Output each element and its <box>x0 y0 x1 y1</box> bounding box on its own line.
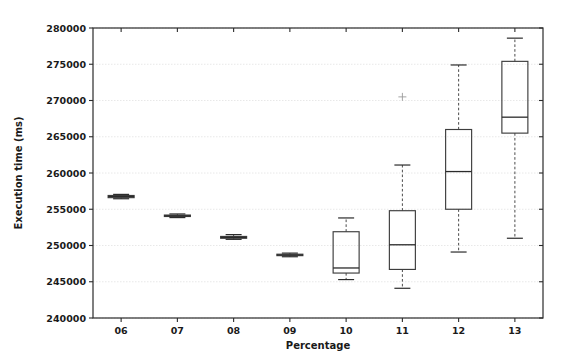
box-iqr <box>446 130 472 210</box>
boxplot-07 <box>164 214 190 218</box>
y-tick-label: 265000 <box>46 131 86 142</box>
y-tick-label: 275000 <box>46 59 86 70</box>
box-series <box>108 38 528 288</box>
boxplot-08 <box>221 235 247 240</box>
x-tick-label: 07 <box>171 325 184 336</box>
x-tick-label: 12 <box>452 325 465 336</box>
x-axis-title: Percentage <box>286 340 351 351</box>
box-iqr <box>333 232 359 273</box>
y-axis-title: Execution time (ms) <box>13 116 24 229</box>
x-tick-label: 09 <box>283 325 296 336</box>
y-tick-label: 240000 <box>46 313 86 324</box>
y-tick-label: 250000 <box>46 240 86 251</box>
boxplot-canvas: 2400002450002500002550002600002650002700… <box>0 0 570 359</box>
y-tick-label: 245000 <box>46 276 86 287</box>
boxplot-12 <box>446 65 472 252</box>
x-tick-label: 13 <box>508 325 521 336</box>
boxplot-13 <box>502 38 528 238</box>
boxplot-figure: 2400002450002500002550002600002650002700… <box>0 0 570 359</box>
y-tick-label: 280000 <box>46 23 86 34</box>
y-tick-label: 255000 <box>46 204 86 215</box>
boxplot-06 <box>108 194 134 198</box>
x-tick-label: 06 <box>115 325 129 336</box>
box-iqr <box>389 211 415 270</box>
y-tick-label: 260000 <box>46 168 86 179</box>
x-tick-label: 08 <box>227 325 241 336</box>
gridlines <box>93 28 543 318</box>
boxplot-09 <box>277 253 303 257</box>
x-tick-label: 10 <box>340 325 354 336</box>
x-axis-ticks: 0607080910111213 <box>115 28 522 336</box>
x-tick-label: 11 <box>396 325 409 336</box>
boxplot-10 <box>333 218 359 280</box>
box-iqr <box>502 61 528 133</box>
boxplot-11 <box>389 93 415 288</box>
y-tick-label: 270000 <box>46 95 86 106</box>
